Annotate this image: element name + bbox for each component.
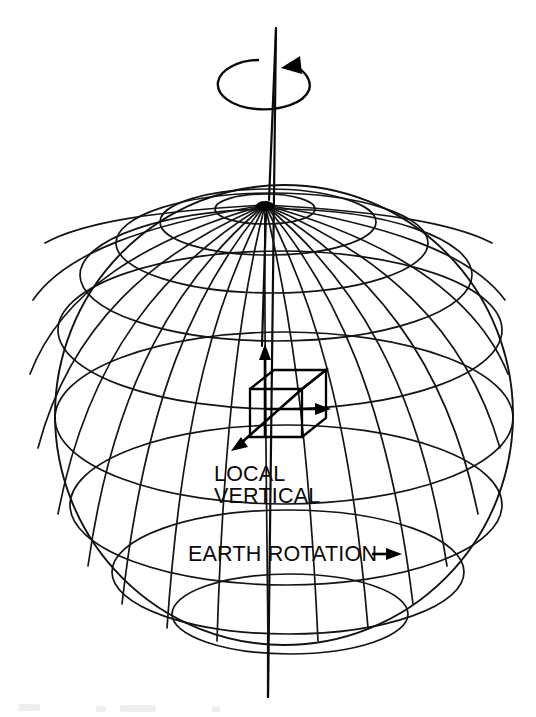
local-frame-cube bbox=[250, 370, 326, 437]
rotation-direction-arrow bbox=[218, 56, 310, 109]
scan-artifacts bbox=[18, 704, 220, 712]
earth-rotation-figure: LOCAL VERTICAL EARTH ROTATION bbox=[0, 0, 536, 717]
earth-rotation-label: EARTH ROTATION bbox=[188, 542, 377, 566]
local-vertical-label-line2: VERTICAL bbox=[214, 484, 320, 508]
globe-diagram-svg: LOCAL VERTICAL EARTH ROTATION bbox=[0, 0, 536, 717]
north-pole-node bbox=[256, 201, 274, 211]
local-vertical-label-line1: LOCAL bbox=[214, 462, 286, 486]
parallel-s65 bbox=[172, 574, 408, 654]
